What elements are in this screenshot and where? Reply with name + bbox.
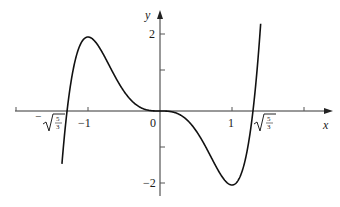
y-tick-label-2: 2 xyxy=(149,27,155,41)
y-axis-label: y xyxy=(144,8,151,22)
x-axis-label: x xyxy=(322,118,329,132)
svg-text:5: 5 xyxy=(56,115,60,123)
svg-text:−: − xyxy=(35,110,41,122)
y-tick-label-neg2: −2 xyxy=(143,176,156,190)
svg-text:3: 3 xyxy=(56,123,60,131)
svg-text:3: 3 xyxy=(267,123,271,131)
x-tick-label-neg1: −1 xyxy=(78,116,91,130)
y-axis-arrow-icon xyxy=(157,10,163,19)
x-tick-label-neg-sqrt-5-3: − 5 3 xyxy=(35,110,65,131)
x-axis-arrow-icon xyxy=(324,108,333,114)
x-tick-label-sqrt-5-3: 5 3 xyxy=(254,114,276,131)
function-plot: y 2 −2 x −1 0 1 − 5 3 5 3 xyxy=(0,0,340,207)
svg-text:5: 5 xyxy=(267,115,271,123)
x-tick-label-0: 0 xyxy=(150,116,156,130)
y-ticks xyxy=(160,34,165,183)
function-curve xyxy=(62,24,261,185)
x-tick-label-1: 1 xyxy=(228,116,234,130)
